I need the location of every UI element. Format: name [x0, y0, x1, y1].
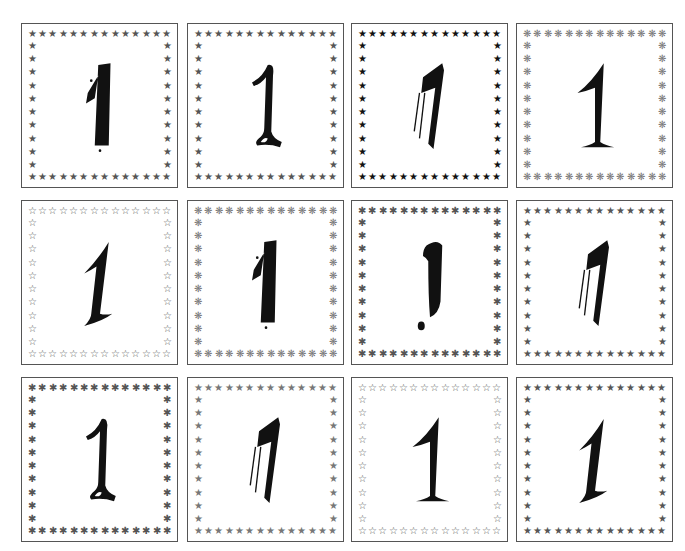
- star-filled-gray-icon: ★: [328, 147, 338, 157]
- star-outline-icon: ☆: [27, 258, 37, 268]
- star-filled-black-icon: ★: [357, 54, 367, 64]
- star-outline-icon: ☆: [152, 206, 162, 216]
- star-filled-gray-icon: ★: [522, 244, 532, 254]
- star-filled-black-icon: ★: [378, 29, 388, 39]
- star-filled-gray-icon: ★: [193, 461, 203, 471]
- star-filled-gray-icon: ★: [318, 172, 328, 182]
- snowflake-asterisk-icon: ❋: [553, 172, 563, 182]
- star-filled-black-icon: ★: [419, 29, 429, 39]
- star-filled-gray-icon: ★: [553, 526, 563, 536]
- star-filled-gray-icon: ★: [318, 526, 328, 536]
- snowflake-asterisk-icon: ❋: [193, 284, 203, 294]
- star-filled-gray-icon: ★: [162, 120, 172, 130]
- ornament-border-right: ✱✱✱✱✱✱✱✱✱✱: [162, 395, 172, 524]
- star-filled-gray-icon: ★: [286, 29, 296, 39]
- table-number-card: ❋❋❋❋❋❋❋❋❋❋❋❋❋❋❋❋❋❋❋❋❋❋❋❋❋❋❋❋❋❋❋❋❋❋❋❋❋❋❋❋…: [187, 200, 344, 365]
- star-filled-gray-icon: ★: [245, 172, 255, 182]
- star-filled-gray-icon: ★: [27, 41, 37, 51]
- snowflake-asterisk-icon: ❋: [235, 206, 245, 216]
- snowflake-asterisk-icon: ❋: [657, 54, 667, 64]
- star-outline-icon: ☆: [37, 349, 47, 359]
- star-outline-icon: ☆: [162, 311, 172, 321]
- star-filled-gray-icon: ★: [162, 81, 172, 91]
- asterisk-icon: ✱: [162, 421, 172, 431]
- table-number-card: ★★★★★★★★★★★★★★★★★★★★★★★★★★★★★★★★★★★★★★★★…: [187, 377, 344, 542]
- ornament-border-left: ☆☆☆☆☆☆☆☆☆☆: [357, 395, 367, 524]
- snowflake-asterisk-icon: ❋: [307, 349, 317, 359]
- star-filled-gray-icon: ★: [657, 337, 667, 347]
- asterisk-icon: ✱: [461, 349, 471, 359]
- ornament-border-left: ❋❋❋❋❋❋❋❋❋❋: [193, 218, 203, 347]
- snowflake-asterisk-icon: ❋: [522, 81, 532, 91]
- star-outline-icon: ☆: [492, 526, 502, 536]
- star-outline-icon: ☆: [482, 526, 492, 536]
- asterisk-icon: ✱: [100, 526, 110, 536]
- star-filled-gray-icon: ★: [276, 172, 286, 182]
- star-outline-icon: ☆: [27, 337, 37, 347]
- star-filled-gray-icon: ★: [522, 408, 532, 418]
- ornament-border-top: ★★★★★★★★★★★★★★: [193, 29, 338, 39]
- star-filled-gray-icon: ★: [328, 67, 338, 77]
- star-filled-gray-icon: ★: [636, 349, 646, 359]
- ornament-border-top: ❋❋❋❋❋❋❋❋❋❋❋❋❋❋: [193, 206, 338, 216]
- asterisk-icon: ✱: [357, 349, 367, 359]
- star-filled-black-icon: ★: [357, 120, 367, 130]
- snowflake-asterisk-icon: ❋: [276, 349, 286, 359]
- star-outline-icon: ☆: [471, 526, 481, 536]
- star-outline-icon: ☆: [471, 383, 481, 393]
- star-outline-icon: ☆: [492, 488, 502, 498]
- star-outline-icon: ☆: [378, 526, 388, 536]
- snowflake-asterisk-icon: ❋: [193, 218, 203, 228]
- star-filled-gray-icon: ★: [522, 231, 532, 241]
- star-filled-gray-icon: ★: [564, 526, 574, 536]
- star-filled-black-icon: ★: [399, 29, 409, 39]
- star-outline-icon: ☆: [399, 526, 409, 536]
- star-outline-icon: ☆: [69, 349, 79, 359]
- star-filled-gray-icon: ★: [564, 383, 574, 393]
- asterisk-icon: ✱: [357, 284, 367, 294]
- ornament-border-top: ★★★★★★★★★★★★★★: [193, 383, 338, 393]
- star-filled-gray-icon: ★: [595, 383, 605, 393]
- star-filled-gray-icon: ★: [522, 474, 532, 484]
- star-filled-gray-icon: ★: [657, 244, 667, 254]
- star-filled-gray-icon: ★: [657, 526, 667, 536]
- star-filled-gray-icon: ★: [307, 526, 317, 536]
- ornament-border-bottom: ❋❋❋❋❋❋❋❋❋❋❋❋❋❋: [193, 349, 338, 359]
- star-outline-icon: ☆: [27, 231, 37, 241]
- star-filled-gray-icon: ★: [328, 408, 338, 418]
- asterisk-icon: ✱: [110, 383, 120, 393]
- star-filled-gray-icon: ★: [657, 448, 667, 458]
- star-filled-gray-icon: ★: [193, 435, 203, 445]
- star-outline-icon: ☆: [69, 206, 79, 216]
- star-filled-gray-icon: ★: [162, 41, 172, 51]
- star-filled-gray-icon: ★: [27, 172, 37, 182]
- ornament-border-right: ★★★★★★★★★★: [162, 41, 172, 170]
- star-filled-gray-icon: ★: [255, 526, 265, 536]
- star-filled-gray-icon: ★: [328, 526, 338, 536]
- snowflake-asterisk-icon: ❋: [286, 349, 296, 359]
- star-outline-icon: ☆: [27, 297, 37, 307]
- asterisk-icon: ✱: [162, 474, 172, 484]
- snowflake-asterisk-icon: ❋: [203, 206, 213, 216]
- star-filled-gray-icon: ★: [255, 172, 265, 182]
- star-filled-gray-icon: ★: [584, 206, 594, 216]
- star-filled-black-icon: ★: [450, 172, 460, 182]
- star-filled-gray-icon: ★: [615, 206, 625, 216]
- star-filled-gray-icon: ★: [532, 383, 542, 393]
- snowflake-asterisk-icon: ❋: [193, 324, 203, 334]
- star-filled-gray-icon: ★: [193, 501, 203, 511]
- star-outline-icon: ☆: [162, 324, 172, 334]
- numeral-one-marker-script: [65, 405, 135, 515]
- star-filled-gray-icon: ★: [89, 172, 99, 182]
- star-outline-icon: ☆: [461, 526, 471, 536]
- star-outline-icon: ☆: [492, 395, 502, 405]
- star-filled-gray-icon: ★: [522, 448, 532, 458]
- ornament-border-left: ★★★★★★★★★★: [357, 41, 367, 170]
- star-filled-gray-icon: ★: [522, 349, 532, 359]
- asterisk-icon: ✱: [27, 395, 37, 405]
- numeral-one-brush-block: [65, 51, 135, 161]
- asterisk-icon: ✱: [357, 258, 367, 268]
- star-filled-gray-icon: ★: [193, 448, 203, 458]
- star-filled-gray-icon: ★: [141, 29, 151, 39]
- star-filled-gray-icon: ★: [522, 395, 532, 405]
